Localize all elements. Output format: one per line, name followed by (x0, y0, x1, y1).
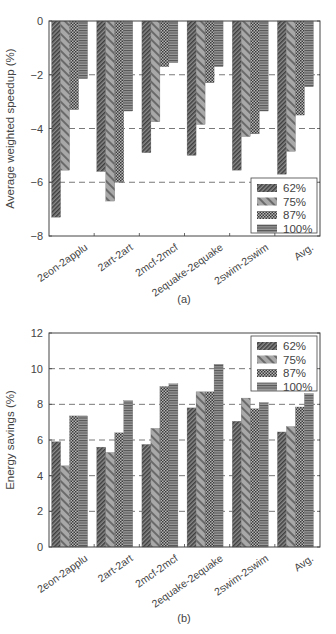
x-tick-label: Avg. (291, 552, 315, 574)
bar (304, 21, 313, 87)
bar (61, 21, 70, 170)
bar (124, 401, 133, 547)
bar (142, 444, 151, 547)
figure-caption: (b) (177, 612, 190, 624)
bar (277, 432, 286, 547)
bar (232, 421, 241, 547)
y-tick-label: 12 (31, 327, 43, 339)
y-tick-label: 6 (37, 434, 43, 446)
legend-swatch (257, 369, 277, 377)
y-tick-label: −2 (30, 69, 43, 81)
bar (295, 407, 304, 547)
bar (97, 21, 106, 172)
bar (70, 416, 79, 547)
bar (214, 364, 223, 547)
legend: 62%75%87%100% (251, 336, 317, 393)
bar (160, 387, 169, 548)
legend: 62%75%87%100% (251, 178, 317, 235)
y-axis-label: Energy savings (%) (4, 390, 16, 490)
bar (232, 21, 241, 170)
y-tick-label: 0 (37, 541, 43, 553)
bar (277, 21, 286, 174)
bar (259, 21, 268, 111)
x-tick-label: Avg. (291, 241, 315, 263)
bar (259, 403, 268, 547)
legend-label: 62% (283, 182, 306, 194)
bar (70, 21, 79, 110)
bar (214, 21, 223, 67)
bar (304, 394, 313, 547)
speedup-chart-svg: 2eon-2applu2art-2art2mcf-2mcf2equake-2eq… (0, 0, 336, 320)
bar (151, 21, 160, 122)
bar (196, 392, 205, 547)
bar (115, 433, 124, 547)
energy-savings-chart-svg: 2eon-2applu2art-2art2mcf-2mcf2equake-2eq… (0, 320, 336, 634)
y-tick-label: 2 (37, 505, 43, 517)
bar (151, 428, 160, 547)
plot-area (49, 364, 320, 547)
bar (106, 452, 115, 547)
legend-swatch (257, 198, 277, 206)
bar (52, 442, 61, 547)
legend-label: 75% (283, 354, 306, 366)
bar (160, 21, 169, 67)
bar (250, 21, 259, 134)
figure-caption: (a) (177, 293, 190, 305)
legend-swatch (257, 184, 277, 192)
x-tick-label: 2art-2art (95, 241, 134, 274)
bar (115, 21, 124, 182)
energy-savings-chart: 2eon-2applu2art-2art2mcf-2mcf2equake-2eq… (0, 320, 336, 634)
y-tick-label: −6 (30, 176, 43, 188)
legend-label: 75% (283, 196, 306, 208)
speedup-chart: 2eon-2applu2art-2art2mcf-2mcf2equake-2eq… (0, 0, 336, 320)
legend-swatch (257, 342, 277, 350)
legend-label: 100% (283, 223, 312, 235)
legend-label: 87% (283, 209, 306, 221)
bar (205, 21, 214, 83)
bar (106, 21, 115, 201)
legend-label: 62% (283, 340, 306, 352)
bar (169, 21, 178, 63)
bar (286, 427, 295, 547)
y-axis-label: Average weighted speedup (%) (4, 48, 16, 208)
bar (97, 447, 106, 547)
legend-swatch (257, 225, 277, 233)
bar (187, 21, 196, 155)
y-tick-label: 4 (37, 470, 43, 482)
y-tick-label: 0 (37, 15, 43, 27)
bar (205, 392, 214, 547)
y-tick-label: −4 (30, 123, 43, 135)
x-tick-label: 2eon-2applu (35, 552, 90, 595)
bar (52, 21, 61, 217)
legend-swatch (257, 211, 277, 219)
x-tick-label: 2eon-2applu (35, 241, 90, 284)
bar (196, 21, 205, 124)
bar (79, 416, 88, 547)
bar (79, 21, 88, 79)
bar (286, 21, 295, 151)
bar (169, 384, 178, 547)
bar (295, 21, 304, 115)
legend-swatch (257, 356, 277, 364)
bar (124, 21, 133, 111)
legend-swatch (257, 383, 277, 391)
bar (241, 398, 250, 547)
legend-label: 87% (283, 367, 306, 379)
bar (250, 409, 259, 547)
bar (142, 21, 151, 153)
bar (187, 408, 196, 547)
bar (241, 21, 250, 137)
x-tick-label: 2art-2art (95, 552, 134, 585)
legend-label: 100% (283, 381, 312, 393)
y-tick-label: 10 (31, 363, 43, 375)
bar (61, 466, 70, 547)
y-tick-label: −8 (30, 230, 43, 242)
y-tick-label: 8 (37, 398, 43, 410)
